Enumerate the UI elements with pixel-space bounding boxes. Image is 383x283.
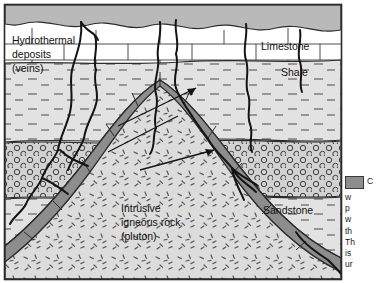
label-hydrothermal-line2: deposits [12,48,51,60]
label-shale: Shale [281,66,308,78]
legend-line-1: C [367,176,373,187]
label-pluton-line3: (pluton) [121,230,157,242]
legend: C w p w th Th is ur [345,176,383,270]
legend-line-6: Th [345,237,383,248]
legend-line-2: w [345,192,383,203]
cross-section-svg: Hydrothermal deposits (veins) Limestone … [0,0,383,283]
label-limestone: Limestone [261,40,310,52]
label-hydrothermal-line3: (veins) [12,62,44,74]
label-sandstone: Sandstone [263,204,313,216]
legend-line-3: p [345,203,383,214]
label-pluton-line2: igneous rock [121,216,181,228]
legend-line-5: th [345,226,383,237]
label-hydrothermal-line1: Hydrothermal [12,34,75,46]
legend-swatch-aureole [345,176,364,189]
legend-line-4: w [345,214,383,225]
label-pluton-line1: Intrusive [121,202,161,214]
legend-line-8: ur [345,259,383,270]
legend-line-7: is [345,248,383,259]
figure-root: Hydrothermal deposits (veins) Limestone … [0,0,383,283]
